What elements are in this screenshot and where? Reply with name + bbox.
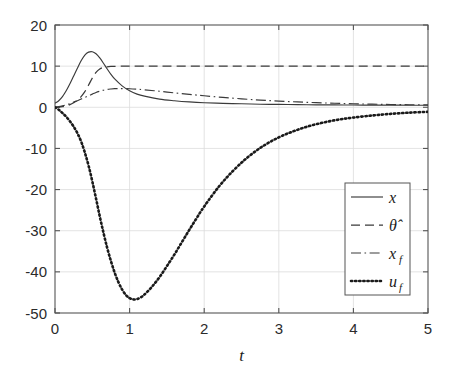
x-tick-label: 4 xyxy=(349,320,357,337)
x-tick-label: 5 xyxy=(424,320,432,337)
y-tick-label: -10 xyxy=(25,140,47,157)
x-tick-label: 3 xyxy=(275,320,283,337)
legend-label-0: x xyxy=(388,189,396,206)
y-tick-label: 0 xyxy=(39,99,47,116)
chart-figure: 20100-10-20-30-40-50 012345 t xθ̂xfuf xyxy=(0,0,452,374)
x-tick-label: 0 xyxy=(51,320,59,337)
x-tick-label: 1 xyxy=(125,320,133,337)
y-tick-label: -40 xyxy=(25,263,47,280)
legend-label-3: u xyxy=(389,273,397,290)
y-tick-label: 20 xyxy=(30,17,47,34)
chart-legend: xθ̂xfuf xyxy=(345,183,410,295)
line-chart: 20100-10-20-30-40-50 012345 t xθ̂xfuf xyxy=(0,0,452,374)
x-tick-label: 2 xyxy=(200,320,208,337)
legend-box xyxy=(345,183,410,295)
y-tick-label: -50 xyxy=(25,305,47,322)
y-tick-label: -30 xyxy=(25,222,47,239)
legend-label-2: x xyxy=(388,245,396,262)
y-tick-label: 10 xyxy=(30,58,47,75)
y-tick-label: -20 xyxy=(25,181,47,198)
